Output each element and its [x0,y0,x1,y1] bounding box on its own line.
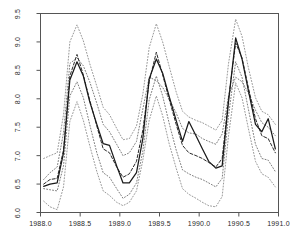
y-axis-tick-label: 6.0 [8,207,28,219]
y-axis-tick-label: 9.0 [8,36,28,48]
x-axis-tick-label: 1991.0 [259,220,299,227]
x-axis-tick-label: 1988.5 [60,220,100,227]
series-line-inner-band-upper [44,58,276,180]
line-chart-plot [0,0,302,242]
y-axis-tick-label: 9.5 [8,8,28,20]
y-axis-tick-label: 7.0 [8,150,28,162]
plot-frame [41,14,279,213]
series-line-inner-band-lower [44,62,276,198]
y-axis-tick-label: 8.5 [8,64,28,76]
y-axis-tick-label: 6.5 [8,178,28,190]
x-axis-tick-label: 1990.5 [219,220,259,227]
chart-container: 1988.01988.51989.01989.51990.01990.51991… [0,0,302,242]
series-line-outer-band-lower [44,83,276,210]
x-axis-tick-label: 1990.0 [179,220,219,227]
y-axis-tick-label: 7.5 [8,121,28,133]
y-axis-tick-label: 8.0 [8,93,28,105]
x-axis-tick-label: 1988.0 [21,220,61,227]
series-line-outer-band-upper [44,19,276,158]
x-axis-tick-label: 1989.5 [140,220,180,227]
x-axis-tick-label: 1989.0 [100,220,140,227]
